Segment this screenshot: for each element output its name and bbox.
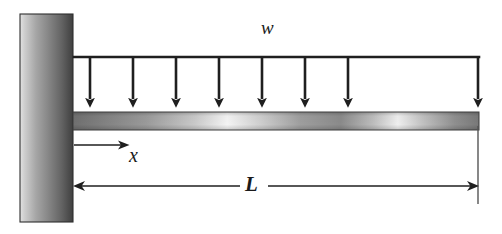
- beam-bar: [73, 112, 479, 130]
- fixed-support-wall: [20, 14, 73, 222]
- distributed-load-group: [74, 57, 479, 99]
- beam-diagram: w x L: [0, 0, 502, 234]
- length-dimension-line: [73, 181, 479, 191]
- length-label-L: L: [245, 174, 258, 195]
- load-label-w: w: [261, 18, 274, 37]
- diagram-canvas: [0, 0, 502, 234]
- x-distance-arrow: [74, 141, 130, 150]
- distance-label-x: x: [129, 145, 138, 165]
- load-arrows: [90, 57, 478, 99]
